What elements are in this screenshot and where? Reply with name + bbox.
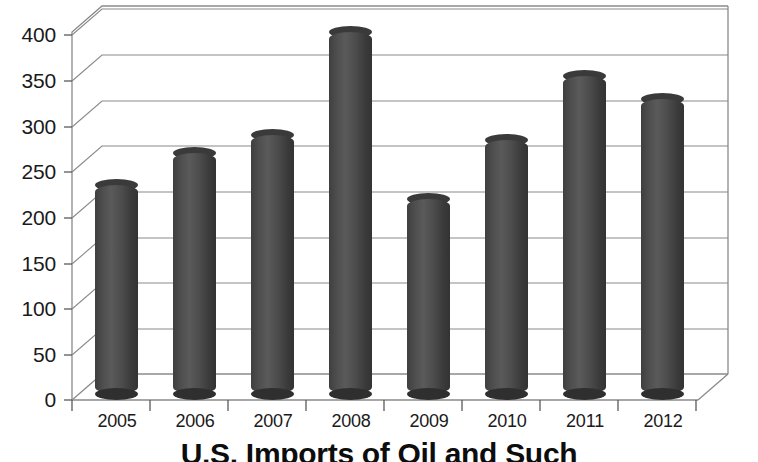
- bar-2011: [563, 76, 606, 394]
- bar-body: [329, 32, 372, 394]
- bar-series: [0, 0, 758, 462]
- chart-page: 400 350 300 250 200 150 100 50 0: [0, 0, 758, 462]
- bar-bottom-ellipse: [407, 388, 450, 400]
- bar-2012: [641, 99, 684, 394]
- bar-2008: [329, 32, 372, 394]
- bar-body: [95, 185, 138, 394]
- x-tick-label: 2005: [97, 411, 136, 432]
- bar-body: [641, 99, 684, 394]
- bar-body: [407, 199, 450, 394]
- x-tick-label: 2006: [175, 411, 214, 432]
- x-tick-label: 2011: [566, 411, 604, 432]
- bar-2005: [95, 185, 138, 394]
- x-tick-label: 2010: [487, 411, 526, 432]
- bar-2010: [485, 140, 528, 394]
- bar-body: [563, 76, 606, 394]
- bar-chart: 400 350 300 250 200 150 100 50 0: [0, 0, 758, 462]
- bar-2009: [407, 199, 450, 394]
- bar-bottom-ellipse: [641, 388, 684, 400]
- bar-body: [251, 135, 294, 394]
- x-tick-label: 2007: [253, 411, 292, 432]
- bar-body: [173, 153, 216, 394]
- bar-2007: [251, 135, 294, 394]
- bar-2006: [173, 153, 216, 394]
- x-tick-label: 2008: [331, 411, 370, 432]
- bar-bottom-ellipse: [563, 388, 606, 400]
- bar-bottom-ellipse: [173, 388, 216, 400]
- x-tick-label: 2009: [409, 411, 448, 432]
- bar-bottom-ellipse: [485, 388, 528, 400]
- bar-body: [485, 140, 528, 394]
- x-tick-label: 2012: [643, 411, 682, 432]
- chart-title: U.S. Imports of Oil and Such: [0, 437, 758, 462]
- bar-bottom-ellipse: [95, 388, 138, 400]
- bar-bottom-ellipse: [329, 388, 372, 400]
- bar-bottom-ellipse: [251, 388, 294, 400]
